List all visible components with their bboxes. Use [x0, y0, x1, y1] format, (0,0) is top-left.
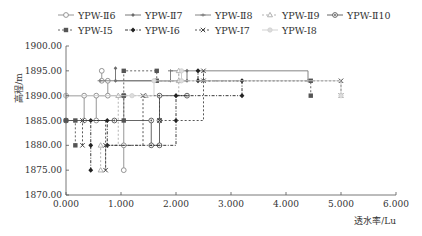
x-tick-label: 5.000: [328, 199, 354, 209]
x-tick-label: 4.000: [273, 199, 299, 209]
plot-area: [64, 66, 344, 172]
data-point: [179, 79, 183, 83]
data-point: [179, 69, 183, 73]
y-axis-title: 高程/m: [13, 73, 24, 103]
legend-marker-icon: [268, 12, 273, 16]
x-tick-label: 0.000: [53, 199, 79, 209]
legend-item[interactable]: YPW-Ⅱ7: [125, 10, 182, 21]
y-tick-label: 1895.00: [25, 66, 62, 76]
data-point: [98, 143, 103, 147]
series-line: [116, 68, 188, 80]
y-tick-label: 1880.00: [25, 140, 62, 150]
y-tick-label: 1885.00: [25, 116, 62, 126]
y-tick-label: 1900.00: [25, 41, 62, 51]
legend-label: YPW-Ⅱ8: [214, 10, 252, 21]
legend-item[interactable]: YPW-Ⅱ9: [262, 10, 319, 21]
legend-marker-icon: [131, 27, 136, 32]
legend-marker-icon: [64, 13, 69, 18]
legend: YPW-Ⅱ6YPW-Ⅱ7YPW-Ⅱ8YPW-Ⅱ9YPW-Ⅱ10YPW-Ⅰ5YPW…: [58, 10, 391, 36]
x-tick-label: 6.000: [383, 199, 409, 209]
x-axis-title: 透水率/Lu: [354, 215, 396, 226]
legend-label: YPW-Ⅰ8: [281, 25, 317, 36]
x-tick-label: 2.000: [163, 199, 189, 209]
data-point: [240, 93, 245, 98]
data-point: [174, 93, 179, 98]
data-point: [99, 68, 104, 73]
y-tick-label: 1870.00: [25, 190, 62, 200]
legend-marker-icon: [201, 14, 206, 17]
data-point: [121, 168, 126, 173]
data-point: [88, 143, 93, 148]
data-point: [88, 168, 93, 173]
legend-label: YPW-Ⅰ7: [214, 25, 250, 36]
legend-item[interactable]: YPW-Ⅱ6: [58, 10, 115, 21]
data-point: [196, 68, 201, 73]
legend-label: YPW-Ⅱ10: [346, 10, 391, 21]
permeability-elevation-chart: YPW-Ⅱ6YPW-Ⅱ7YPW-Ⅱ8YPW-Ⅱ9YPW-Ⅱ10YPW-Ⅰ5YPW…: [0, 0, 422, 236]
y-tick-label: 1890.00: [25, 91, 62, 101]
legend-item[interactable]: YPW-Ⅰ5: [58, 25, 113, 36]
legend-label: YPW-Ⅱ9: [281, 10, 319, 21]
legend-item[interactable]: YPW-Ⅰ7: [195, 25, 250, 36]
legend-label: YPW-Ⅱ7: [144, 10, 182, 21]
legend-item[interactable]: YPW-Ⅰ8: [262, 25, 317, 36]
legend-marker-icon: [131, 13, 135, 17]
legend-item[interactable]: YPW-Ⅰ6: [125, 25, 180, 36]
legend-marker-icon: [268, 28, 272, 32]
data-point: [339, 93, 343, 97]
series-line: [100, 71, 308, 81]
y-tick-label: 1875.00: [25, 165, 62, 175]
data-point: [152, 79, 156, 83]
data-point: [114, 66, 118, 70]
data-point: [309, 93, 313, 97]
data-point: [122, 69, 126, 73]
x-tick-label: 3.000: [218, 199, 244, 209]
legend-label: YPW-Ⅰ5: [77, 25, 113, 36]
x-tick-label: 1.000: [108, 199, 134, 209]
data-point: [73, 143, 77, 147]
data-point: [73, 118, 77, 122]
legend-label: YPW-Ⅱ6: [77, 10, 115, 21]
data-point: [98, 168, 103, 172]
data-point: [122, 118, 126, 122]
data-point: [155, 69, 159, 73]
legend-marker-icon: [64, 28, 68, 32]
legend-item[interactable]: YPW-Ⅱ10: [327, 10, 391, 21]
legend-label: YPW-Ⅰ6: [144, 25, 180, 36]
data-point: [168, 69, 173, 72]
legend-item[interactable]: YPW-Ⅱ8: [195, 10, 252, 21]
data-point: [130, 93, 134, 97]
